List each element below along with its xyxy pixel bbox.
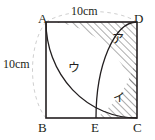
dimension-label-top: 10cm [70, 5, 99, 17]
region-label-i: イ [113, 92, 125, 104]
vertex-label-b: B [38, 121, 47, 134]
vertex-label-a: A [38, 12, 47, 25]
vertex-label-e: E [91, 121, 99, 134]
dimension-label-left: 10cm [2, 58, 31, 70]
region-label-a: ア [112, 33, 124, 45]
region-label-u: ウ [68, 62, 80, 74]
geometry-figure: A B C D E 10cm 10cm ア イ ウ [0, 0, 155, 140]
dashed-construction-arc-left [33, 22, 47, 118]
vertex-label-d: D [134, 12, 143, 25]
vertex-label-c: C [133, 121, 142, 134]
